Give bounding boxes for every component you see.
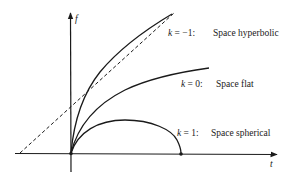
origin-point xyxy=(69,152,73,156)
t-axis xyxy=(15,154,277,155)
y-axis-label: f xyxy=(75,14,79,24)
label-flat-desc: Space flat xyxy=(216,79,254,89)
label-spherical-desc: Space spherical xyxy=(211,128,271,138)
x-axis-label: t xyxy=(270,159,273,169)
label-flat-k: k = 0: xyxy=(181,79,203,89)
label-hyperbolic-desc: Space hyperbolic xyxy=(213,28,279,38)
label-hyperbolic-k: k = −1: xyxy=(168,28,195,38)
curve-spherical xyxy=(71,120,181,153)
asymptote-dashed-line xyxy=(20,13,174,153)
friedmann-models-diagram: f t k = −1: Space hyperbolic k = 0: Spac… xyxy=(0,0,291,176)
label-spherical-k: k = 1: xyxy=(177,128,199,138)
recollapse-point xyxy=(179,152,183,156)
